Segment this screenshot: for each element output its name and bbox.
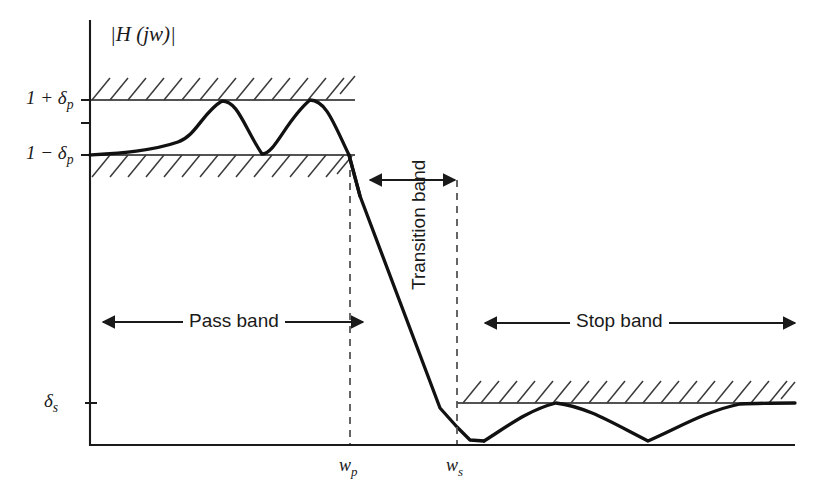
y-label-delta-s-symbol: δ: [44, 390, 53, 411]
transition-band-label: Transition band: [409, 160, 428, 290]
x-label-wp-subscript: p: [351, 464, 357, 479]
x-label-ws-subscript: s: [458, 464, 463, 479]
stopband-bound-group: [457, 381, 795, 403]
stopband-hatching: [463, 381, 795, 403]
upper-passband-bound-group: [90, 76, 355, 100]
y-label-one-plus-delta-p: 1 + δp: [26, 88, 74, 111]
y-label-one-minus-subscript: p: [67, 152, 74, 167]
y-label-one-plus-text: 1 +: [26, 87, 58, 108]
y-label-one-plus-symbol: δ: [58, 87, 67, 108]
x-label-ws-symbol: w: [446, 455, 458, 475]
lower-passband-hatching: [92, 155, 352, 177]
plot-title: |H (jw)|: [110, 24, 176, 45]
y-label-delta-s-subscript: s: [53, 400, 58, 415]
x-label-wp-symbol: w: [339, 455, 351, 475]
y-label-one-plus-subscript: p: [67, 97, 74, 112]
stop-band-label: Stop band: [570, 311, 669, 330]
filter-spec-figure: |H (jw)| 1 + δp 1 − δp δs wp ws Pass ban…: [0, 0, 823, 498]
y-label-one-minus-delta-p: 1 − δp: [26, 143, 74, 166]
pass-band-label: Pass band: [183, 311, 285, 330]
y-label-one-minus-symbol: δ: [58, 142, 67, 163]
x-label-ws: ws: [446, 456, 463, 479]
passband-ripple-curve: [90, 100, 360, 196]
x-label-wp: wp: [339, 456, 358, 479]
y-label-one-minus-text: 1 −: [26, 142, 58, 163]
upper-passband-hatching: [92, 76, 355, 100]
y-label-delta-s: δs: [44, 391, 58, 414]
lower-passband-bound-group: [90, 155, 355, 177]
stopband-ripple-curve: [484, 403, 795, 441]
